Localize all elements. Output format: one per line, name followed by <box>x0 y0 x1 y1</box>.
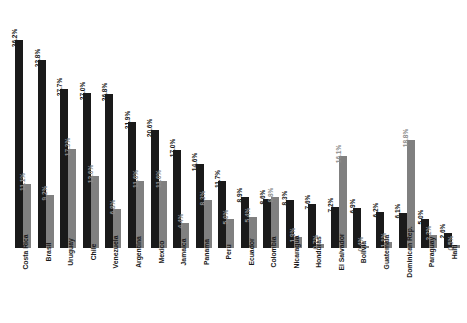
category-label: Dominican Rep. <box>407 226 414 277</box>
bar-wrapper: 5.4% <box>249 6 257 248</box>
bar-group: 6.1%18.8% <box>395 6 418 248</box>
category-label: Chile <box>91 244 98 261</box>
bar-wrapper: 11.6% <box>136 6 144 248</box>
bar-group: 6.2%1.1% <box>373 6 396 248</box>
bar-value-label: 11.6% <box>132 170 140 188</box>
bar-value-label: 4.4% <box>177 213 185 228</box>
bar-dark: 20.6% <box>151 130 159 248</box>
bar-group: 8.6%8.8% <box>260 6 283 248</box>
bar-value-label: 6.9% <box>349 199 357 214</box>
bar-wrapper: 20.6% <box>151 6 159 248</box>
category-label: El Salvador <box>339 233 346 270</box>
bar-value-label: 6.2% <box>372 203 380 218</box>
category-label-cell: Honduras <box>305 250 328 320</box>
bar-wrapper: 18.8% <box>407 6 415 248</box>
category-label: Ecuador <box>249 238 256 265</box>
bar-wrapper: 6.1% <box>399 6 407 248</box>
bar-wrapper: 8.3% <box>204 6 212 248</box>
category-label-cell: Uruguay <box>57 250 80 320</box>
bar-wrapper: 2.2% <box>429 6 437 248</box>
category-label: Peru <box>226 244 233 259</box>
bar-group: 36.2%11.1% <box>12 6 35 248</box>
bar-value-label: 9.2% <box>42 186 50 201</box>
category-label-cell: Mexico <box>147 250 170 320</box>
bar-light: 11.6% <box>159 181 167 248</box>
bar-dark: 14.6% <box>196 164 204 248</box>
bar-wrapper: 36.2% <box>15 6 23 248</box>
bar-wrapper: 5.0% <box>421 6 429 248</box>
bar-value-label: 26.8% <box>101 83 109 101</box>
bar-value-label: 18.8% <box>403 129 411 147</box>
bar-value-label: 11.1% <box>19 173 27 191</box>
category-label-cell: El Salvador <box>328 250 351 320</box>
category-label-cell: Guatemala <box>373 250 396 320</box>
bar-value-label: 12.6% <box>87 164 95 182</box>
category-label: Uruguay <box>68 238 75 266</box>
bar-dark: 17.0% <box>173 150 181 248</box>
bar-light: 9.2% <box>46 195 54 248</box>
bar-wrapper: 8.3% <box>286 6 294 248</box>
bar-value-label: 8.6% <box>259 189 267 204</box>
bar-value-label: 20.6% <box>147 118 155 136</box>
bar-wrapper: 27.7% <box>60 6 68 248</box>
bar-wrapper: 12.6% <box>91 6 99 248</box>
bar-wrapper: 32.8% <box>38 6 46 248</box>
category-label-cell: Peru <box>215 250 238 320</box>
bar-value-label: 27.7% <box>56 78 64 96</box>
bar-group: 27.7%17.3% <box>57 6 80 248</box>
category-label-cell: Panama <box>192 250 215 320</box>
bar-group: 21.9%11.6% <box>125 6 148 248</box>
bar-wrapper: 27.0% <box>83 6 91 248</box>
bar-group: 8.9%5.4% <box>237 6 260 248</box>
bar-value-label: 7.2% <box>327 197 335 212</box>
bar-wrapper: 14.6% <box>196 6 204 248</box>
bar-wrapper: 0.7% <box>316 6 324 248</box>
category-label: Nicaragua <box>294 236 301 269</box>
bar-value-label: 5.0% <box>222 210 230 225</box>
category-label: Panama <box>204 239 211 265</box>
category-label-cell: Ecuador <box>237 250 260 320</box>
bar-wrapper: 11.1% <box>23 6 31 248</box>
category-label: Bolivia <box>361 241 368 263</box>
bar-group: 27.0%12.6% <box>80 6 103 248</box>
bar-value-label: 36.2% <box>11 29 19 47</box>
bar-group: 32.8%9.2% <box>35 6 58 248</box>
bar-wrapper: 7.6% <box>308 6 316 248</box>
category-label-cell: Dominican Rep. <box>395 250 418 320</box>
bar-wrapper: 17.3% <box>68 6 76 248</box>
category-label: Jamaica <box>181 239 188 266</box>
bar-value-label: 16.1% <box>335 144 343 162</box>
category-label: Venezuela <box>113 236 120 269</box>
bar-value-label: 11.6% <box>155 170 163 188</box>
bar-value-label: 21.9% <box>124 111 132 129</box>
category-label: Costa Rica <box>23 234 30 269</box>
category-label-cell: Bolivia <box>350 250 373 320</box>
bar-group: 6.9%0.4% <box>350 6 373 248</box>
bar-wrapper: 0.5% <box>452 6 460 248</box>
bar-wrapper: 6.2% <box>376 6 384 248</box>
bar-dark: 27.7% <box>60 89 68 248</box>
category-label-cell: Chile <box>80 250 103 320</box>
bar-wrapper: 0.4% <box>361 6 369 248</box>
bar-wrapper: 4.4% <box>181 6 189 248</box>
bar-group: 5.0%2.2% <box>418 6 441 248</box>
bar-wrapper: 5.0% <box>226 6 234 248</box>
category-label-cell: Costa Rica <box>12 250 35 320</box>
bar-value-label: 8.3% <box>282 191 290 206</box>
category-label-cell: Venezuela <box>102 250 125 320</box>
bar-wrapper: 2.6% <box>444 6 452 248</box>
bar-light: 17.3% <box>68 149 76 248</box>
bar-value-label: 6.8% <box>109 200 117 215</box>
bar-wrapper: 6.8% <box>113 6 121 248</box>
bar-wrapper: 7.2% <box>331 6 339 248</box>
bar-chart: 36.2%11.1%32.8%9.2%27.7%17.3%27.0%12.6%2… <box>0 0 467 323</box>
category-label: Guatemala <box>384 235 391 270</box>
category-label-cell: Brasil <box>35 250 58 320</box>
bar-value-label: 14.6% <box>192 153 200 171</box>
category-label-cell: Colombia <box>260 250 283 320</box>
bar-wrapper: 11.6% <box>159 6 167 248</box>
bar-value-label: 17.0% <box>169 139 177 157</box>
bar-light: 12.6% <box>91 176 99 248</box>
bar-wrapper: 16.1% <box>339 6 347 248</box>
bar-group: 7.2%16.1% <box>328 6 351 248</box>
